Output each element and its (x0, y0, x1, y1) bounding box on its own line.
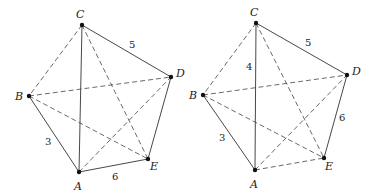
vertex-c (254, 21, 258, 25)
edge-cd (256, 23, 347, 75)
vertex-label: E (324, 160, 333, 173)
edge-ca (255, 23, 256, 170)
vertex-label: C (76, 8, 85, 21)
vertex-a (253, 168, 257, 172)
vertex-b (27, 94, 31, 98)
graph-right: 5436CBAED (188, 6, 361, 191)
vertex-label: C (250, 6, 259, 19)
vertex-label: A (249, 178, 258, 191)
edge-cb (29, 25, 82, 96)
edge-bd (203, 75, 347, 95)
vertex-label: B (14, 90, 23, 103)
edge-weight: 3 (45, 136, 51, 147)
edge-be (203, 95, 324, 158)
vertex-label: D (351, 65, 361, 78)
edge-weight: 5 (129, 39, 135, 50)
edge-cb (203, 23, 256, 95)
vertex-label: B (188, 89, 197, 102)
edge-ad (255, 75, 347, 170)
edge-ba (203, 95, 255, 170)
edge-ce (82, 25, 148, 159)
edge-bd (29, 77, 171, 96)
vertex-label: D (175, 67, 185, 80)
edge-cd (82, 25, 171, 77)
edge-weight: 6 (339, 112, 345, 123)
vertex-d (345, 73, 349, 77)
vertex-a (77, 170, 81, 174)
edge-be (29, 96, 148, 159)
edge-ba (29, 96, 79, 172)
vertex-c (80, 23, 84, 27)
vertex-b (201, 93, 205, 97)
edge-weight: 4 (246, 61, 252, 72)
edge-weight: 3 (219, 132, 225, 143)
graph-left: 536CBAED (14, 8, 185, 193)
vertex-label: A (73, 180, 82, 193)
edge-weight: 5 (305, 37, 311, 48)
edge-weight: 6 (112, 171, 118, 182)
vertex-d (169, 75, 173, 79)
graph-diagrams: 536CBAED 5436CBAED (0, 0, 375, 196)
vertex-label: E (149, 160, 158, 173)
edge-ce (256, 23, 324, 158)
edge-ca (79, 25, 82, 172)
edge-ae (255, 158, 324, 170)
edge-ad (79, 77, 171, 172)
